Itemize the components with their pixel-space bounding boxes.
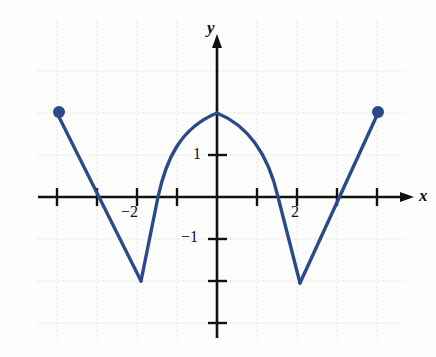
- y-axis-label: y: [207, 18, 215, 38]
- y-tick-label-negative-1: −1: [181, 228, 198, 246]
- x-axis: [38, 192, 414, 202]
- left-closed-endpoint-dot: [53, 106, 65, 118]
- y-tick-label-1: 1: [193, 145, 201, 163]
- x-axis-label: x: [419, 186, 428, 206]
- right-closed-endpoint-dot: [372, 106, 384, 118]
- y-axis: [212, 34, 222, 338]
- grid-lines: [38, 22, 405, 340]
- chart-figure: y x −2 2 1 −1: [0, 0, 436, 357]
- x-tick-label-2: 2: [291, 203, 299, 221]
- x-tick-label-negative-2: −2: [121, 203, 138, 221]
- plot-canvas: [0, 0, 436, 357]
